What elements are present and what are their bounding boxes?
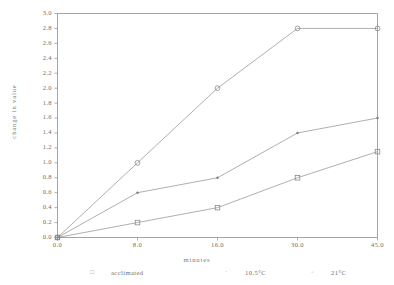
y-tick-label: 2.8 [26,25,52,32]
chart-container: change in value 0.00.20.40.60.81.01.21.4… [0,0,394,285]
y-tick-label: 0.6 [26,189,52,196]
data-point-marker [297,132,299,134]
y-tick-label: 0.4 [26,204,52,211]
series-group [55,26,380,240]
x-tick-label: 8.0 [118,241,158,248]
legend-item[interactable]: □acclimated [88,268,144,280]
legend-item[interactable]: ◦21°C [308,268,346,280]
dot-marker-icon: · [222,269,231,275]
data-point-marker [137,192,139,194]
x-tick-label: 30.0 [278,241,318,248]
y-tick-label: 0.2 [26,219,52,226]
data-point-marker [377,117,379,119]
series-line-21°C [58,28,378,237]
y-tick-label: 1.4 [26,129,52,136]
legend-label: 10.5°C [245,269,266,276]
x-tick-label: 16.0 [198,241,238,248]
y-tick-label: 1.2 [26,144,52,151]
x-axis-label: minutes [0,256,394,263]
x-tick-label: 45.0 [358,241,394,248]
y-tick-label: 1.8 [26,100,52,107]
circle-marker-icon: ◦ [308,269,317,275]
x-tick-label: 0.0 [38,241,78,248]
y-tick-label: 0.8 [26,174,52,181]
y-axis-tick-labels: 0.00.20.40.60.81.01.21.41.61.82.02.22.42… [24,0,52,245]
y-tick-label: 0.0 [26,234,52,241]
y-tick-label: 2.0 [26,85,52,92]
legend-label: 21°C [331,269,346,276]
y-tick-label: 2.4 [26,55,52,62]
legend-label: acclimated [111,269,144,276]
y-axis-label: change in value [10,52,17,172]
series-line-acclimated [58,152,378,238]
data-point-marker [217,177,219,179]
y-axis-label-container: change in value [0,0,22,245]
square-marker-icon: □ [88,269,97,275]
y-tick-label: 2.6 [26,40,52,47]
y-tick-label: 1.6 [26,114,52,121]
legend-item[interactable]: ·10.5°C [222,268,266,280]
chart-legend: □acclimated·10.5°C◦21°C [0,268,394,282]
y-tick-label: 2.2 [26,70,52,77]
y-tick-label: 1.0 [26,159,52,166]
y-tick-label: 3.0 [26,10,52,17]
